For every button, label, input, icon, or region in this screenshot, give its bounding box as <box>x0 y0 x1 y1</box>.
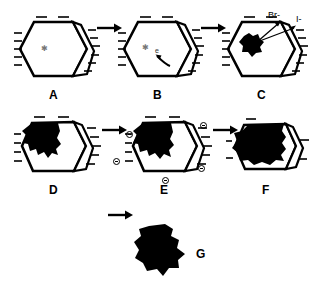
negative-charge-e-1 <box>126 131 133 138</box>
negative-charge-e-2 <box>113 158 120 165</box>
panel-label-g: G <box>196 248 205 260</box>
panel-e-crystal <box>125 113 207 179</box>
panel-a-crystal: ✱ <box>14 14 96 84</box>
surface-dashes-left <box>118 33 126 65</box>
panel-g <box>133 224 189 278</box>
iodide-ion-label: I- <box>296 15 302 24</box>
panel-e <box>125 113 207 179</box>
panel-b-crystal: ✱ e <box>118 14 200 84</box>
panel-d-crystal <box>14 113 96 179</box>
surface-dashes-left <box>226 141 233 158</box>
panel-a: ✱ <box>14 14 96 84</box>
arrow-f-g <box>108 209 134 221</box>
surface-dashes-left <box>14 33 22 65</box>
panel-label-b: B <box>153 89 162 101</box>
panel-c-crystal <box>222 14 304 84</box>
surface-dashes-left <box>125 134 133 161</box>
panel-b: ✱ e <box>118 14 200 84</box>
electron-label: e <box>155 47 159 54</box>
figure-canvas: ✱ A <box>0 0 311 286</box>
negative-charge-f-1 <box>200 122 207 129</box>
sensitivity-speck-star: ✱ <box>142 43 149 52</box>
panel-label-d: D <box>49 184 58 196</box>
bromide-ion-label: Br- <box>268 11 280 20</box>
panel-label-c: C <box>257 89 266 101</box>
sensitivity-speck-star: ✱ <box>41 44 48 53</box>
surface-dashes-left <box>222 33 230 65</box>
silver-region <box>232 124 286 165</box>
panel-c <box>222 14 304 84</box>
panel-f <box>226 113 308 179</box>
panel-label-e: E <box>160 184 168 196</box>
surface-dashes-left <box>14 134 22 161</box>
panel-f-crystal <box>226 113 308 179</box>
panel-d <box>14 113 96 179</box>
panel-label-a: A <box>49 89 58 101</box>
negative-charge-e-4 <box>198 165 205 172</box>
developed-grain <box>134 224 185 276</box>
panel-label-f: F <box>262 184 269 196</box>
panel-g-grain <box>133 224 189 278</box>
